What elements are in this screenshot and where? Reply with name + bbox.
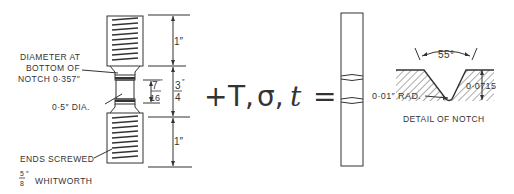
equation-time: t [290,80,302,113]
notch-depth: 0·0715 [466,81,496,91]
notch-diameter-leader [82,70,118,73]
bottom-threaded-end [107,113,143,163]
equation-temperature: T, [227,80,254,113]
notch-radius: 0·01″ RAD. [372,91,421,101]
top-thread-length: 1″ [174,36,184,47]
notch-spacing-denominator: 16 [150,93,160,103]
result-specimen [341,13,363,166]
ends-screwed-leader [94,149,112,158]
top-threaded-end [107,16,143,66]
notch-angle: 55° [438,49,454,60]
ends-fraction-denominator: 8 [20,180,24,187]
notch-detail-caption: DETAIL OF NOTCH [403,114,485,124]
equation-equals: = [313,80,336,113]
notch-diameter-label-1: DIAMETER AT [20,52,80,62]
notch-diameter-label-2: BOTTOM OF [26,63,80,73]
notch-spacing-unit: ″ [160,78,163,85]
middle-length-numerator: 3 [175,80,181,91]
notch-spacing-numerator: 7 [152,80,158,91]
equation-plus: + [204,80,227,113]
ends-fraction-numerator: 5 [20,170,24,177]
shank-diameter-label: 0·5″ DIA. [52,102,90,112]
bottom-thread-length: 1″ [174,136,184,147]
ends-screwed-label: ENDS SCREWED [20,154,94,164]
middle-length-unit: ″ [182,78,185,85]
middle-length-denominator: 4 [175,92,181,103]
ends-fraction-unit: ″ [26,170,29,177]
notched-specimen-diagram: DIAMETER AT BOTTOM OF NOTCH 0·357″ 0·5″ … [0,0,514,194]
notch-diameter-label-3: NOTCH 0·357″ [18,74,80,84]
whitworth-label: WHITWORTH [35,176,92,186]
equation-stress: σ, [257,80,284,113]
